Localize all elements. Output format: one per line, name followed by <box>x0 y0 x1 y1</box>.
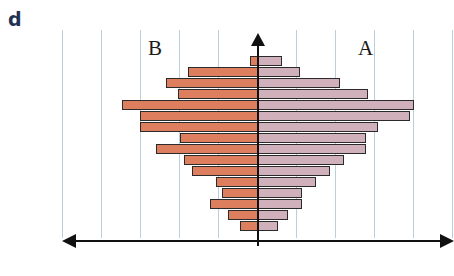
bar-left-b <box>240 221 258 231</box>
bar-right-a <box>258 133 366 143</box>
bar-row <box>40 89 454 99</box>
bar-left-b <box>166 78 258 88</box>
bar-row <box>40 221 454 231</box>
bar-right-a <box>258 67 300 77</box>
bar-left-b <box>140 111 258 121</box>
vertical-axis-arrow-icon <box>251 33 265 46</box>
figure-panel-d: d B A <box>0 0 454 276</box>
bar-row <box>40 133 454 143</box>
bar-right-a <box>258 78 340 88</box>
bar-group <box>40 30 454 238</box>
bar-row <box>40 100 454 110</box>
bar-right-a <box>258 100 414 110</box>
bar-right-a <box>258 144 366 154</box>
bar-row <box>40 122 454 132</box>
bar-right-a <box>258 89 368 99</box>
bar-left-b <box>156 144 258 154</box>
bar-left-b <box>192 166 258 176</box>
bar-right-a <box>258 111 410 121</box>
horizontal-axis-arrow-right-icon <box>440 234 454 248</box>
plot-area: B A <box>40 30 454 242</box>
bar-left-b <box>216 177 258 187</box>
bar-left-b <box>178 89 258 99</box>
bar-left-b <box>180 133 258 143</box>
bar-row <box>40 188 454 198</box>
bar-row <box>40 78 454 88</box>
bar-row <box>40 155 454 165</box>
horizontal-axis-line <box>75 240 445 242</box>
bar-left-b <box>228 210 258 220</box>
bar-right-a <box>258 199 302 209</box>
bar-row <box>40 56 454 66</box>
vertical-axis-line <box>257 42 259 246</box>
bar-left-b <box>184 155 258 165</box>
bar-right-a <box>258 56 282 66</box>
bar-row <box>40 67 454 77</box>
bar-right-a <box>258 177 316 187</box>
bar-left-b <box>140 122 258 132</box>
bar-right-a <box>258 166 330 176</box>
bar-row <box>40 111 454 121</box>
bar-row <box>40 144 454 154</box>
bar-right-a <box>258 210 288 220</box>
bar-left-b <box>210 199 258 209</box>
horizontal-axis-arrow-left-icon <box>62 234 76 248</box>
bar-row <box>40 166 454 176</box>
bar-right-a <box>258 122 378 132</box>
bar-right-a <box>258 221 278 231</box>
bar-left-b <box>188 67 258 77</box>
bar-row <box>40 210 454 220</box>
panel-letter: d <box>8 10 21 29</box>
bar-right-a <box>258 188 302 198</box>
bar-left-b <box>222 188 258 198</box>
bar-row <box>40 177 454 187</box>
bar-left-b <box>122 100 258 110</box>
bar-right-a <box>258 155 344 165</box>
bar-row <box>40 199 454 209</box>
